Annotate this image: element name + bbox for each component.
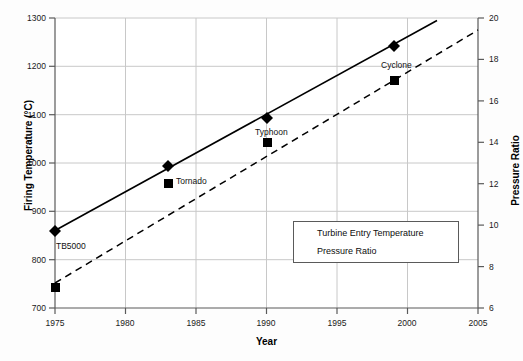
- annotation-cyclone: Cyclone: [381, 60, 412, 70]
- y-axis-right-title: Pressure Ratio: [510, 81, 521, 261]
- y-right-tick-label: 8: [489, 262, 494, 272]
- x-tick-label: 2000: [382, 318, 432, 328]
- annotation-tornado: Tornado: [176, 176, 207, 186]
- y-right-tick-label: 6: [489, 303, 494, 313]
- annotation-typhoon: Typhoon: [255, 127, 288, 137]
- chart-plot-canvas: [0, 0, 523, 361]
- legend-item-label: Pressure Ratio: [317, 246, 377, 256]
- data-point-square-tb5000: [51, 283, 60, 292]
- square-marker-icon: [304, 247, 313, 256]
- data-point-square-tornado: [164, 179, 173, 188]
- chart-legend: Turbine Entry Temperature Pressure Ratio: [293, 221, 459, 263]
- y-left-tick-label: 700: [8, 303, 46, 313]
- y-left-tick-label: 800: [8, 255, 46, 265]
- x-tick-label: 2005: [453, 318, 503, 328]
- y-right-tick-label: 12: [489, 179, 498, 189]
- x-tick-label: 1990: [241, 318, 291, 328]
- x-tick-label: 1995: [312, 318, 362, 328]
- y-right-tick-label: 14: [489, 137, 498, 147]
- chart-figure: 1300 1200 1100 1000 900 800 700 20 18 16…: [0, 0, 523, 361]
- annotation-tb5000: TB5000: [56, 241, 86, 251]
- y-axis-left-title: Firing Temperature (°C): [23, 66, 34, 246]
- x-tick-label: 1980: [100, 318, 150, 328]
- y-right-tick-label: 16: [489, 96, 498, 106]
- x-ticks: [55, 308, 478, 314]
- y-left-tick-label: 1300: [8, 13, 46, 23]
- data-point-square-cyclone: [390, 76, 399, 85]
- y-left-ticks: [49, 18, 55, 308]
- y-right-tick-label: 10: [489, 220, 498, 230]
- legend-item-label: Turbine Entry Temperature: [317, 228, 424, 238]
- y-right-ticks: [478, 18, 484, 308]
- x-tick-label: 1985: [171, 318, 221, 328]
- legend-item-pressure-ratio: Pressure Ratio: [304, 244, 377, 258]
- y-right-tick-label: 18: [489, 54, 498, 64]
- x-tick-label: 1975: [30, 318, 80, 328]
- y-right-tick-label: 20: [489, 13, 498, 23]
- legend-item-turbine-entry-temperature: Turbine Entry Temperature: [304, 226, 424, 240]
- data-point-square-typhoon: [263, 138, 272, 147]
- diamond-marker-icon: [304, 229, 313, 238]
- x-axis-title: Year: [55, 336, 478, 347]
